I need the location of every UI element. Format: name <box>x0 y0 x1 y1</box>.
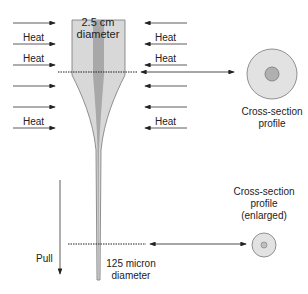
enlarged-label-line1: Cross-section <box>233 186 294 198</box>
heat-label-left-1: Heat <box>23 32 44 44</box>
preform-core <box>93 20 104 280</box>
heat-label-right-3: Heat <box>155 116 176 128</box>
pull-label: Pull <box>36 253 53 265</box>
cross-section-core <box>265 67 279 81</box>
heat-label-left-2: Heat <box>23 53 44 65</box>
cross-section-label-line2: profile <box>258 118 285 130</box>
enlarged-label-line3: (enlarged) <box>241 210 287 222</box>
preform-size-label-line1: 2.5 cm <box>81 16 114 28</box>
enlarged-cross-section-core <box>261 242 267 248</box>
preform-size-label-line2: diameter <box>77 28 120 40</box>
heat-label-right-1: Heat <box>155 32 176 44</box>
fiber-size-label-line1: 125 micron <box>106 258 155 270</box>
heat-label-left-3: Heat <box>23 116 44 128</box>
fiber-drawing-diagram <box>0 0 308 294</box>
cross-section-label-line1: Cross-section <box>241 106 302 118</box>
fiber-size-label-line2: diameter <box>112 270 151 282</box>
enlarged-label-line2: profile <box>250 198 277 210</box>
heat-label-right-2: Heat <box>155 53 176 65</box>
